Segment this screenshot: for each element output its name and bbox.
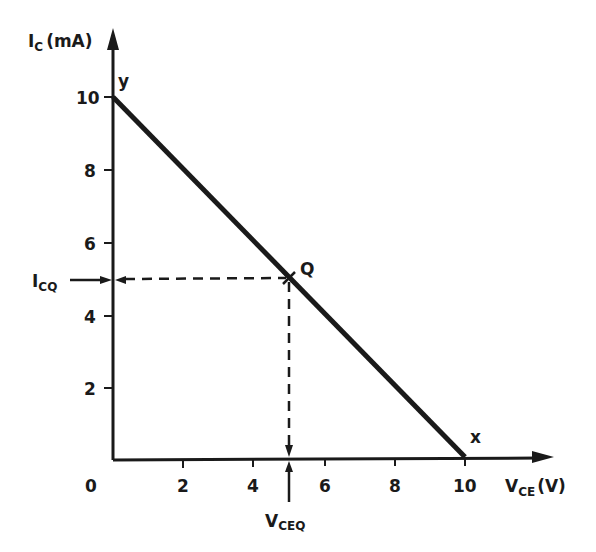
point-x-label: x [470,427,481,447]
x-axis-title: VCE(V) [505,476,566,499]
y-axis-arrow-icon [107,28,119,50]
y-tick-10: 10 [76,88,100,108]
q-point-label: Q [300,259,314,279]
y-axis-title: IC(mA) [28,31,93,54]
icq-dash-arrow-icon [115,276,126,284]
y-tick-4: 4 [84,307,96,327]
x-tick-10: 10 [453,476,477,496]
y-tick-6: 6 [84,234,96,254]
x-tick-4: 4 [247,476,259,496]
icq-label: ICQ [32,271,57,294]
point-y-label: y [118,71,129,91]
vceq-label: VCEQ [265,511,305,533]
chart-svg: 10 8 6 4 2 0 2 4 6 8 10 IC(mA) VCE(V) y … [0,0,596,552]
load-line-diagram: 10 8 6 4 2 0 2 4 6 8 10 IC(mA) VCE(V) y … [0,0,596,552]
x-axis-arrow-icon [532,451,554,463]
vceq-down-arrow-icon [285,445,293,457]
icq-dashed-line [125,278,286,279]
origin-label: 0 [85,476,97,496]
y-tick-8: 8 [84,161,96,181]
x-tick-2: 2 [177,476,189,496]
y-tick-2: 2 [84,379,96,399]
icq-arrow-icon [100,276,112,284]
x-axis [113,458,540,460]
x-tick-6: 6 [319,476,331,496]
x-tick-8: 8 [389,476,401,496]
